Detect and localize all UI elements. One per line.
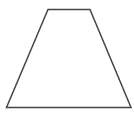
trapezoid-shape bbox=[7, 10, 132, 108]
diagram-canvas bbox=[0, 0, 134, 121]
